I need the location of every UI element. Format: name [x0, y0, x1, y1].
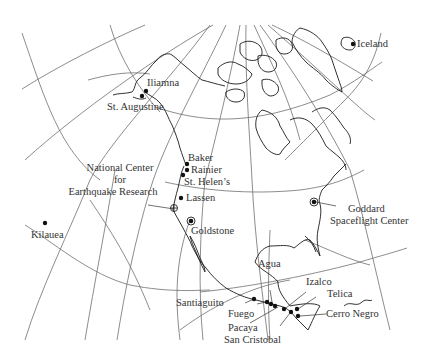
rainier-marker — [185, 168, 189, 172]
label-baker: Baker — [188, 152, 213, 163]
label-st-augustine: St. Augustine — [107, 101, 164, 112]
label-kilauea: Kilauea — [31, 229, 64, 240]
goldstone-marker-icon — [187, 217, 195, 225]
label-cerro-negro: Cerro Negro — [326, 308, 379, 319]
label-san-cristobal: San Cristobal — [224, 334, 281, 345]
label-santiaguito: Santiaguito — [176, 297, 224, 308]
label-telica: Telica — [327, 288, 353, 299]
ncer-marker-icon — [171, 205, 178, 212]
st-augustine-marker — [140, 94, 144, 98]
north-america-map: Iliamna St. Augustine Baker Rainier St. … — [0, 0, 422, 359]
kilauea-marker — [43, 221, 47, 225]
cerro-negro-marker — [296, 314, 300, 318]
label-ncer-line3: Earthquake Research — [58, 186, 168, 197]
label-fuego: Fuego — [228, 308, 254, 319]
label-iliamna: Iliamna — [147, 77, 179, 88]
label-st-helens: St. Helen’s — [184, 176, 230, 187]
label-goldstone: Goldstone — [191, 225, 234, 236]
label-lassen: Lassen — [186, 192, 215, 203]
label-agua: Agua — [258, 258, 281, 269]
san-cristobal-marker — [289, 310, 293, 314]
lassen-marker — [179, 196, 183, 200]
telica-marker — [295, 307, 299, 311]
iceland-marker — [351, 42, 355, 46]
label-iceland: Iceland — [357, 38, 388, 49]
label-ncer-line1: National Center — [75, 162, 165, 173]
label-ncer-line2: for — [75, 174, 165, 185]
agua-marker — [265, 300, 269, 304]
label-izalco: Izalco — [306, 276, 332, 287]
label-goddard-line2: Spaceflight Center — [330, 215, 408, 226]
label-rainier: Rainier — [191, 164, 222, 175]
santiaguito-marker — [252, 297, 256, 301]
alaska-coastline — [113, 54, 225, 95]
izalco-marker — [282, 307, 286, 311]
fuego-marker — [269, 302, 273, 306]
iliamna-marker — [144, 89, 148, 93]
hudson-bay — [256, 110, 290, 155]
label-goddard-line1: Goddard — [348, 203, 385, 214]
pacaya-marker — [273, 304, 277, 308]
baja-coastline — [190, 236, 205, 272]
label-pacaya: Pacaya — [228, 322, 258, 333]
